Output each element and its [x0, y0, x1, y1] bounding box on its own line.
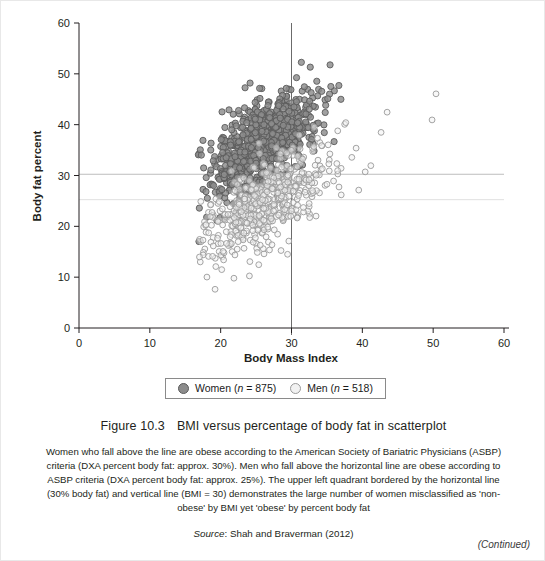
scatter-point: [269, 130, 275, 136]
figure-caption: Figure 10.3BMI versus percentage of body…: [1, 419, 545, 433]
scatter-point: [227, 142, 233, 148]
scatter-point: [295, 202, 301, 208]
scatter-point: [236, 139, 242, 145]
y-tick-label: 0: [64, 322, 70, 334]
scatter-point: [293, 75, 299, 81]
scatter-point: [255, 227, 261, 233]
figure-block: 0102030405060 0102030405060 Body fat per…: [1, 1, 545, 411]
scatter-point: [297, 146, 303, 152]
scatter-point: [302, 189, 308, 195]
scatter-point: [313, 172, 319, 178]
scatter-point: [242, 196, 248, 202]
chart-legend: Women (n = 875) Men (n = 518): [165, 378, 386, 399]
x-tick-label: 20: [215, 337, 227, 349]
scatter-point: [215, 235, 221, 241]
scatter-point: [211, 182, 217, 188]
scatter-point: [203, 222, 209, 228]
scatterplot-chart: 0102030405060 0102030405060 Body fat per…: [19, 13, 519, 363]
scatter-point: [271, 202, 277, 208]
scatter-point: [289, 119, 295, 125]
scatter-point: [196, 205, 202, 211]
scatter-point: [242, 85, 248, 91]
scatter-point: [311, 124, 317, 130]
y-tick-label: 20: [58, 220, 70, 232]
x-tick-label: 0: [76, 337, 82, 349]
scatter-point: [362, 169, 368, 175]
scatter-point: [307, 64, 313, 70]
scatter-point: [274, 168, 280, 174]
scatter-point: [252, 193, 258, 199]
scatter-point: [267, 115, 273, 121]
scatter-point: [223, 229, 229, 235]
scatter-point: [252, 116, 258, 122]
scatter-point: [198, 199, 204, 205]
scatter-point: [213, 264, 219, 270]
scatter-point: [208, 147, 214, 153]
scatter-point: [314, 78, 320, 84]
scatter-point: [241, 245, 247, 251]
scatter-point: [308, 90, 314, 96]
scatter-point: [251, 165, 257, 171]
scatter-point: [307, 98, 313, 104]
scatter-point: [289, 208, 295, 214]
scatter-point: [328, 83, 334, 89]
scatter-point: [307, 215, 313, 221]
scatter-point: [280, 122, 286, 128]
scatter-point: [267, 247, 273, 253]
scatter-point: [220, 206, 226, 212]
scatter-point: [268, 216, 274, 222]
scatter-point: [296, 132, 302, 138]
legend-label-women: Women (n = 875): [195, 383, 276, 394]
scatter-point: [197, 254, 203, 260]
scatter-point: [208, 140, 214, 146]
scatter-point: [204, 274, 210, 280]
scatter-point: [265, 224, 271, 230]
y-tick-label: 10: [58, 271, 70, 283]
scatter-point: [200, 137, 206, 143]
x-tick-label: 50: [427, 337, 439, 349]
scatter-point: [322, 109, 328, 115]
scatter-point: [241, 230, 247, 236]
scatter-point: [259, 128, 265, 134]
scatter-point: [244, 120, 250, 126]
scatter-point: [207, 214, 213, 220]
scatter-point: [216, 199, 222, 205]
scatter-point: [234, 246, 240, 252]
scatter-point: [306, 106, 312, 112]
scatter-point: [324, 181, 330, 187]
scatter-point: [264, 170, 270, 176]
scatter-point: [201, 165, 207, 171]
scatter-point: [218, 241, 224, 247]
scatter-point: [241, 175, 247, 181]
scatter-point: [368, 163, 374, 169]
scatter-point: [237, 165, 243, 171]
scatter-point: [275, 190, 281, 196]
scatter-point: [244, 220, 250, 226]
scatter-point: [232, 252, 238, 258]
scatter-point: [226, 107, 232, 113]
scatter-point: [263, 234, 269, 240]
source-text: : Shah and Braverman (2012): [224, 528, 353, 539]
scatter-point: [225, 212, 231, 218]
scatter-point: [384, 109, 390, 115]
scatter-point: [219, 109, 225, 115]
y-tick-label: 60: [58, 17, 70, 29]
scatter-point: [278, 184, 284, 190]
figure-title: BMI versus percentage of body fat in sca…: [177, 419, 447, 433]
y-axis-ticks: 0102030405060: [58, 17, 79, 334]
scatter-point: [284, 150, 290, 156]
legend-marker-women-icon: [178, 383, 189, 394]
scatter-point: [231, 215, 237, 221]
scatter-point: [306, 201, 312, 207]
scatter-point: [219, 267, 225, 273]
scatter-point: [298, 59, 304, 65]
scatter-point: [290, 188, 296, 194]
scatter-point: [268, 121, 274, 127]
scatter-point: [325, 96, 331, 102]
scatter-point: [247, 273, 253, 279]
scatter-point: [305, 124, 311, 130]
scatter-point: [253, 235, 259, 241]
scatter-point: [327, 62, 333, 68]
scatter-point: [265, 103, 271, 109]
scatter-point: [336, 82, 342, 88]
